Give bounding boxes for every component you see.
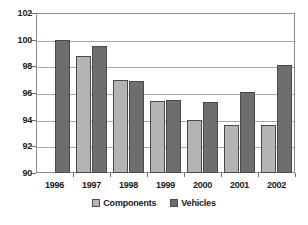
bar-chart-figure: 9092949698100102 19961997199819992000200…: [0, 0, 308, 225]
x-axis-tick-mark: [147, 173, 148, 177]
y-axis-tick-label: 98: [2, 62, 32, 71]
bar-components-1999: [150, 101, 165, 173]
legend-entry-vehicles: Vehicles: [170, 198, 215, 208]
y-axis-tick-label: 96: [2, 89, 32, 98]
x-axis-tick-mark: [258, 173, 259, 177]
bar-vehicles-1998: [129, 81, 144, 173]
gridline: [37, 41, 294, 42]
chart-legend: ComponentsVehicles: [0, 198, 308, 208]
x-axis-tick-label-2002: 2002: [255, 180, 299, 190]
bar-vehicles-2002: [277, 65, 292, 173]
bar-vehicles-1996: [55, 40, 70, 173]
bar-components-1997: [76, 56, 91, 173]
bar-components-2002: [261, 125, 276, 173]
x-axis-tick-mark: [184, 173, 185, 177]
y-axis-tick-label: 90: [2, 169, 32, 178]
bar-vehicles-1997: [92, 46, 107, 173]
y-axis-tick-label: 94: [2, 116, 32, 125]
bar-vehicles-1999: [166, 100, 181, 173]
legend-label: Vehicles: [181, 198, 215, 208]
x-axis-tick-mark: [110, 173, 111, 177]
x-axis-tick-mark: [295, 173, 296, 177]
legend-swatch-icon: [170, 199, 178, 207]
legend-entry-components: Components: [92, 198, 156, 208]
legend-swatch-icon: [92, 199, 100, 207]
y-axis-tick-label: 92: [2, 142, 32, 151]
bar-components-2001: [224, 125, 239, 173]
y-axis-tick-label: 100: [2, 36, 32, 45]
x-axis-tick-mark: [221, 173, 222, 177]
bar-vehicles-2001: [240, 92, 255, 173]
bar-components-2000: [187, 120, 202, 173]
y-axis-tick-label: 102: [2, 9, 32, 18]
bar-components-1998: [113, 80, 128, 173]
x-axis-tick-mark: [73, 173, 74, 177]
bar-vehicles-2000: [203, 102, 218, 173]
legend-label: Components: [103, 198, 156, 208]
